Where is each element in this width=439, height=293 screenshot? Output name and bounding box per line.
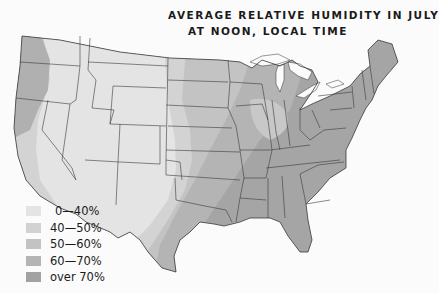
legend-label: 0—40% <box>55 204 99 218</box>
legend-label: over 70% <box>50 270 105 284</box>
legend-item: 40—50% <box>26 220 105 237</box>
legend-swatch <box>26 206 41 216</box>
map-title-line1: AVERAGE RELATIVE HUMIDITY IN JULY <box>168 9 439 21</box>
legend-swatch <box>26 223 41 233</box>
legend-label: 50—60% <box>50 237 102 251</box>
legend-item: 0—40% <box>26 203 105 220</box>
legend-item: over 70% <box>26 269 105 286</box>
legend-item: 50—60% <box>26 236 105 253</box>
legend-swatch <box>26 272 41 282</box>
legend-label: 60—70% <box>50 254 102 268</box>
legend-swatch <box>26 256 41 266</box>
legend: 0—40% 40—50% 50—60% 60—70% over 70% <box>26 203 105 286</box>
map-title-line2: AT NOON, LOCAL TIME <box>188 25 348 37</box>
legend-swatch <box>26 239 41 249</box>
legend-item: 60—70% <box>26 253 105 270</box>
legend-label: 40—50% <box>50 221 102 235</box>
